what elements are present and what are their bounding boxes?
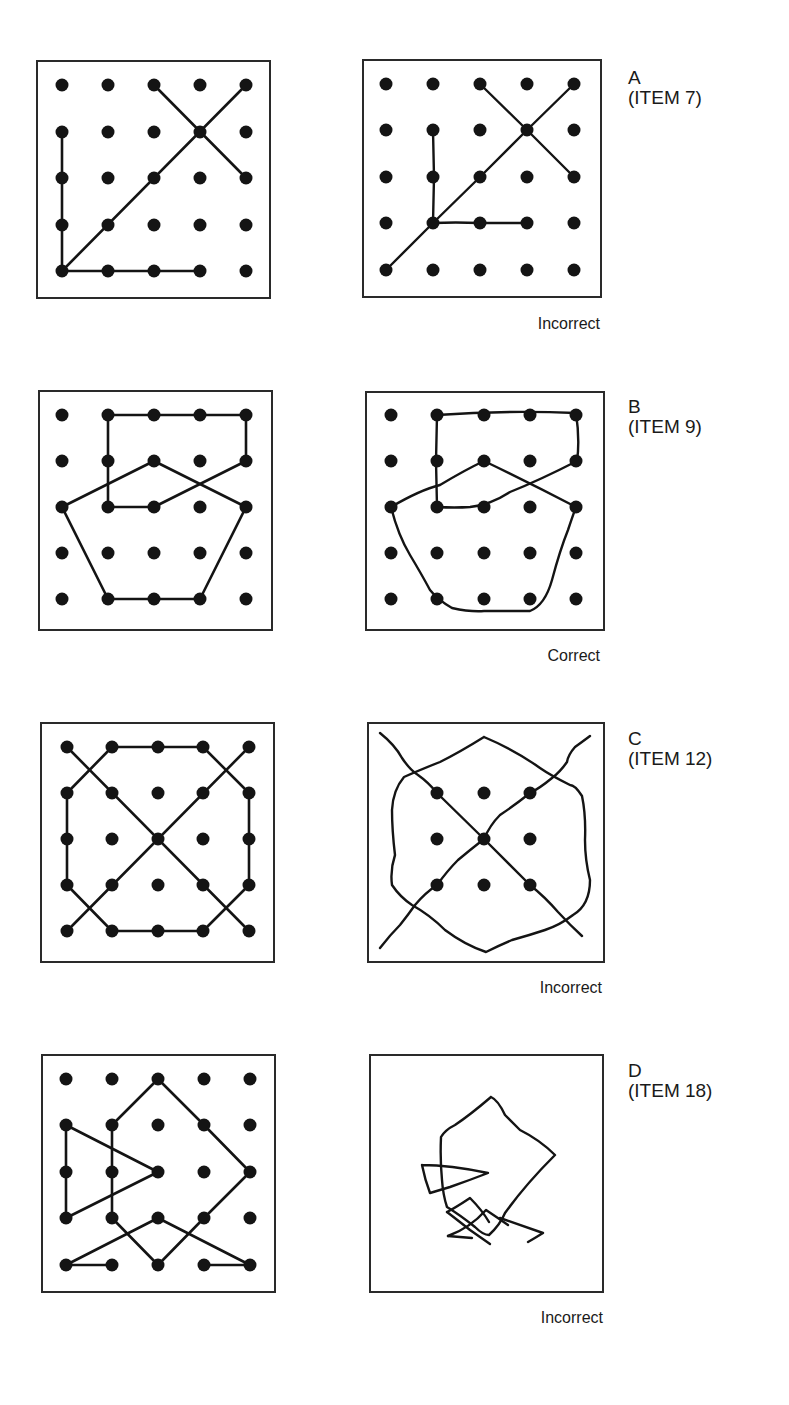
peg-dot: [570, 455, 583, 468]
peg-dot: [102, 265, 115, 278]
peg-dot: [148, 501, 161, 514]
peg-dot: [570, 547, 583, 560]
peg-dot: [194, 126, 207, 139]
peg-dot: [521, 124, 534, 137]
peg-dot: [102, 501, 115, 514]
peg-dot: [56, 409, 69, 422]
band-segment: [112, 1218, 158, 1265]
peg-dot: [474, 78, 487, 91]
geoboard-figure: [0, 0, 789, 1405]
peg-dot: [148, 265, 161, 278]
peg-dot: [106, 1073, 119, 1086]
peg-dot: [240, 126, 253, 139]
peg-dot: [197, 833, 210, 846]
band-segment: [158, 1218, 250, 1265]
peg-dot: [431, 501, 444, 514]
peg-dot: [61, 833, 74, 846]
panel-letter: C: [628, 729, 712, 749]
peg-dot: [194, 409, 207, 422]
panel-letter: D: [628, 1061, 712, 1081]
peg-dot: [431, 547, 444, 560]
peg-dot: [524, 455, 537, 468]
peg-dot: [385, 501, 398, 514]
geoboard-model-d: [42, 1055, 275, 1292]
peg-dot: [240, 79, 253, 92]
peg-dot: [152, 1166, 165, 1179]
peg-dot: [148, 219, 161, 232]
peg-dot: [385, 593, 398, 606]
peg-dot: [106, 833, 119, 846]
peg-dot: [60, 1259, 73, 1272]
peg-dot: [380, 124, 393, 137]
peg-dot: [478, 455, 491, 468]
peg-dot: [61, 879, 74, 892]
peg-dot: [148, 79, 161, 92]
peg-dot: [568, 78, 581, 91]
peg-dot: [240, 172, 253, 185]
verdict-b: Correct: [480, 647, 600, 665]
peg-dot: [148, 455, 161, 468]
peg-dot: [244, 1119, 257, 1132]
peg-dot: [56, 593, 69, 606]
peg-dot: [427, 171, 440, 184]
peg-dot: [106, 1119, 119, 1132]
band-segment: [200, 507, 246, 599]
panel-label-a: A (ITEM 7): [628, 68, 702, 108]
peg-dot: [568, 171, 581, 184]
peg-dot: [197, 879, 210, 892]
panel-item-number: (ITEM 18): [628, 1081, 712, 1101]
peg-dot: [244, 1166, 257, 1179]
peg-dot: [380, 217, 393, 230]
peg-dot: [240, 219, 253, 232]
peg-dot: [60, 1073, 73, 1086]
peg-dot: [243, 925, 256, 938]
geoboard-model-a: [37, 61, 270, 298]
band-segment: [66, 1218, 158, 1265]
peg-dot: [148, 593, 161, 606]
peg-dot: [194, 265, 207, 278]
peg-dot: [102, 547, 115, 560]
peg-dot: [152, 879, 165, 892]
peg-dot: [431, 833, 444, 846]
peg-dot: [478, 409, 491, 422]
peg-dot: [431, 787, 444, 800]
peg-dot: [56, 126, 69, 139]
peg-dot: [474, 217, 487, 230]
peg-dot: [60, 1119, 73, 1132]
peg-dot: [152, 1073, 165, 1086]
peg-dot: [240, 455, 253, 468]
panel-label-c: C (ITEM 12): [628, 729, 712, 769]
peg-dot: [198, 1119, 211, 1132]
peg-dot: [380, 78, 393, 91]
band-segment: [62, 507, 108, 599]
geoboard-copy-c: [368, 723, 604, 962]
peg-dot: [385, 409, 398, 422]
peg-dot: [102, 409, 115, 422]
peg-dot: [60, 1166, 73, 1179]
verdict-d: Incorrect: [483, 1309, 603, 1327]
panel-label-d: D (ITEM 18): [628, 1061, 712, 1101]
peg-dot: [427, 124, 440, 137]
peg-dot: [61, 741, 74, 754]
band-segment: [158, 1079, 204, 1125]
peg-dot: [240, 265, 253, 278]
peg-dot: [240, 593, 253, 606]
peg-dot: [478, 833, 491, 846]
peg-dot: [102, 593, 115, 606]
peg-dot: [56, 79, 69, 92]
peg-dot: [243, 833, 256, 846]
peg-dot: [56, 547, 69, 560]
peg-dot: [56, 455, 69, 468]
peg-dot: [102, 79, 115, 92]
drawn-stroke: [441, 1097, 555, 1235]
peg-dot: [427, 78, 440, 91]
peg-dot: [152, 787, 165, 800]
peg-dot: [152, 1119, 165, 1132]
peg-dot: [380, 264, 393, 277]
peg-dot: [570, 409, 583, 422]
peg-dot: [106, 1259, 119, 1272]
peg-dot: [244, 1212, 257, 1225]
panel-letter: B: [628, 397, 702, 417]
peg-dot: [152, 833, 165, 846]
peg-dot: [431, 409, 444, 422]
